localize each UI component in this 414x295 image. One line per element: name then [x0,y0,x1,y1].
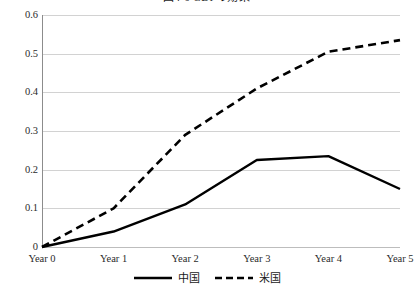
gridline [42,247,400,248]
legend-swatch-dashed-line-icon [214,273,254,283]
x-axis-tick-labels: Year 0Year 1Year 2Year 3Year 4Year 5 [42,252,400,268]
series-line-中国 [42,156,400,247]
legend-swatch-solid-line-icon [133,273,173,283]
legend-item[interactable]: 中国 [133,272,200,284]
y-axis-tick-label: 0.2 [2,164,38,175]
legend-label: 米国 [259,272,281,284]
y-axis-tick-label: 0.5 [2,48,38,59]
x-axis-tick-label: Year 0 [28,252,55,265]
y-axis-tick-labels: 00.10.20.30.40.50.6 [0,15,38,247]
y-axis-tick-label: 0.3 [2,125,38,136]
x-axis-tick-label: Year 4 [315,252,342,265]
x-axis-tick-label: Year 1 [100,252,127,265]
y-axis-tick-label: 0.1 [2,202,38,213]
y-axis-tick-label: 0 [2,241,38,252]
chart-title: 図4-6 GDPの効果 [0,0,413,3]
chart-legend: 中国米国 [0,272,413,284]
y-axis-tick-label: 0.6 [2,9,38,20]
x-axis-tick-label: Year 5 [386,252,413,265]
series-line-米国 [42,40,400,247]
x-axis-tick-label: Year 2 [172,252,199,265]
series-layer [42,15,400,247]
x-axis-tick-label: Year 3 [243,252,270,265]
legend-label: 中国 [178,272,200,284]
legend-item[interactable]: 米国 [214,272,281,284]
y-axis-tick-label: 0.4 [2,86,38,97]
